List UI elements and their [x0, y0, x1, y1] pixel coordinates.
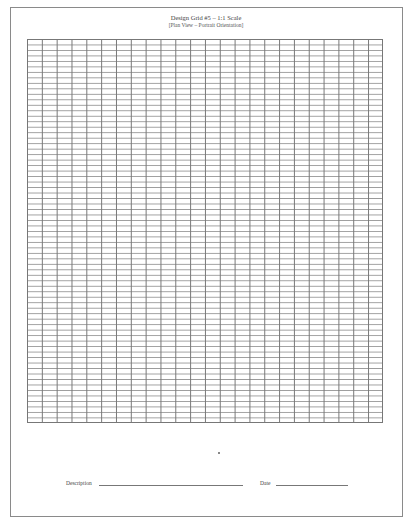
document-title: Design Grid #5 – 1:1 Scale: [0, 14, 412, 22]
description-label: Description: [66, 480, 92, 487]
date-field[interactable]: [276, 485, 348, 486]
date-label: Date: [260, 480, 270, 487]
document-subtitle: [Plan View – Portrait Orientation]: [0, 22, 412, 29]
center-mark-icon: [218, 452, 220, 454]
description-field[interactable]: [99, 485, 243, 486]
design-grid: [27, 39, 383, 423]
